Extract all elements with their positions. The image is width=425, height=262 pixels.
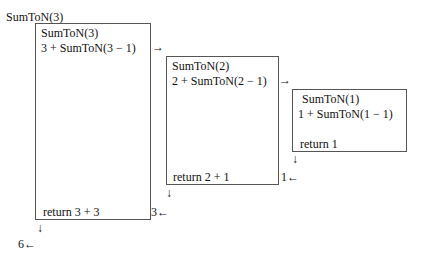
diagram-title: SumToN(3) [6,10,63,24]
frame-3-return: return 1 [300,137,338,151]
frame-2-header: SumToN(2) [172,59,229,73]
frame-3-call: 1 + SumToN(1 − 1) [298,107,393,121]
frame-1-call: 3 + SumToN(3 − 1) [41,41,136,55]
final-result: 6← [18,237,36,251]
arrow-right-icon: → [152,40,164,54]
arrow-down-icon: ↓ [37,221,43,235]
arrow-down-icon: ↓ [166,186,172,200]
arrow-down-icon: ↓ [292,152,298,166]
frame-1-header: SumToN(3) [41,26,98,40]
frame-2-result: 1← [281,170,299,184]
frame-1-result: 3← [151,205,169,219]
frame-2-return: return 2 + 1 [173,170,229,184]
frame-3-header: SumToN(1) [302,92,359,106]
frame-1-return: return 3 + 3 [43,205,99,219]
arrow-right-icon: → [279,73,291,87]
frame-2-call: 2 + SumToN(2 − 1) [172,74,267,88]
